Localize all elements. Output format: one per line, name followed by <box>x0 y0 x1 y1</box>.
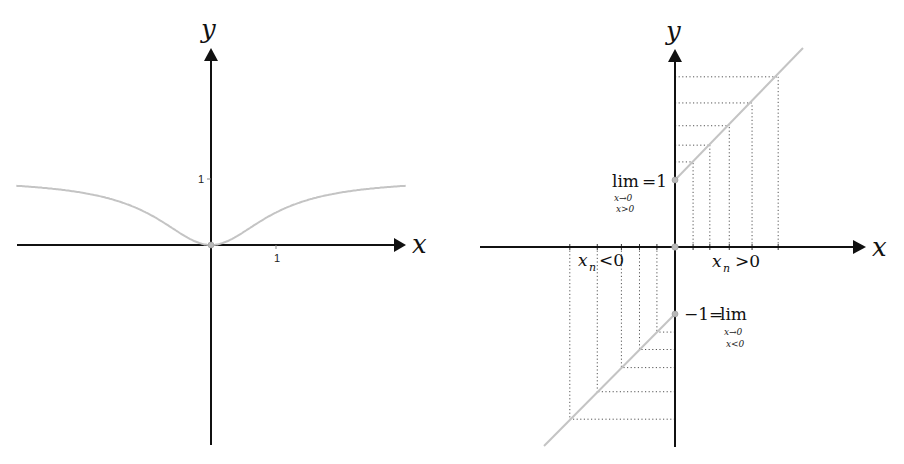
figure: 1 1 x y x y lim =1 x→0 x>0 −1= lim <box>0 0 904 464</box>
left-y-arrow-icon <box>204 48 218 61</box>
left-x-arrow-icon <box>394 238 406 252</box>
upper-lim-sub1: x→0 <box>614 193 633 203</box>
lower-lim-pre: −1= <box>684 304 723 324</box>
lower-lim-text: lim <box>720 304 747 324</box>
left-plot: 1 1 x y <box>16 14 427 445</box>
xn-negative-label: x n <0 <box>578 250 624 274</box>
left-x-axis-label: x <box>412 229 427 259</box>
upper-limit-annotation: lim =1 x→0 x>0 <box>612 171 667 214</box>
svg-text:n: n <box>589 261 596 274</box>
svg-text:n: n <box>723 262 730 275</box>
left-x-tick-label: 1 <box>274 252 280 264</box>
right-origin-point <box>672 244 678 250</box>
upper-lim-eq: =1 <box>642 171 667 191</box>
lower-lim-sub2: x<0 <box>726 339 745 349</box>
xn-positive-label: x n >0 <box>712 251 760 275</box>
right-y-arrow-icon <box>668 49 682 62</box>
right-x-arrow-icon <box>853 240 866 254</box>
right-y-axis-label: y <box>665 16 681 46</box>
right-lower-limit-point <box>672 311 678 317</box>
svg-text:x: x <box>578 250 588 270</box>
right-upper-branch <box>675 48 803 180</box>
lower-lim-sub1: x→0 <box>724 327 743 337</box>
upper-lim-text: lim <box>612 171 639 191</box>
right-x-axis-label: x <box>872 232 887 262</box>
right-upper-limit-point <box>672 177 678 183</box>
svg-text:x: x <box>712 251 722 271</box>
right-plot: x y lim =1 x→0 x>0 −1= lim x→0 x<0 x n <… <box>480 16 887 447</box>
left-origin-point <box>208 242 214 248</box>
svg-text:>0: >0 <box>735 251 760 271</box>
right-lower-branch <box>544 314 675 446</box>
svg-text:<0: <0 <box>599 250 624 270</box>
left-y-tick-label: 1 <box>198 173 204 185</box>
lower-limit-annotation: −1= lim x→0 x<0 <box>684 304 747 349</box>
upper-lim-sub2: x>0 <box>616 204 635 214</box>
left-y-axis-label: y <box>200 14 216 44</box>
